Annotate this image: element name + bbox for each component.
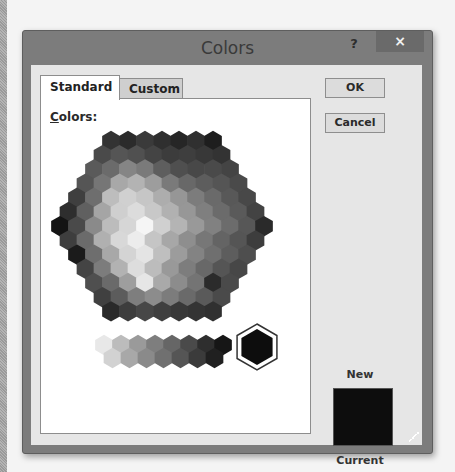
tab-standard[interactable]: Standard [40,75,120,100]
close-button[interactable]: × [376,31,424,52]
dialog-client-area: Standard Custom Colors: OK Cancel New Cu… [31,65,422,445]
background-window-edge [0,0,7,472]
color-preview-swatch [333,388,393,446]
resize-grip-icon[interactable] [409,432,419,442]
help-button[interactable]: ? [344,34,364,54]
new-color-label: New [323,368,397,381]
standard-tab-panel: Colors: [40,98,311,434]
dialog-title: Colors [23,38,432,58]
tab-custom[interactable]: Custom [119,78,183,99]
current-color-label: Current [323,454,397,467]
title-bar[interactable]: Colors ? × [23,31,432,65]
colors-dialog: Colors ? × Standard Custom Colors: OK Ca… [22,30,433,454]
cancel-button[interactable]: Cancel [325,113,385,133]
ok-button[interactable]: OK [325,78,385,98]
color-hexagon-palette[interactable] [41,99,312,435]
close-icon: × [394,33,406,49]
